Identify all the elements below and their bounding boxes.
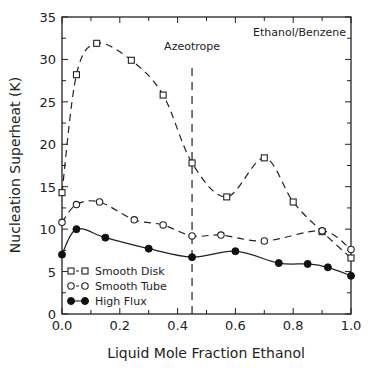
- chart: 0.00.20.40.60.81.005101520253035 Smooth …: [0, 0, 372, 373]
- data-point: [275, 260, 282, 267]
- legend-item: High Flux: [68, 295, 148, 308]
- x-tick-label: 0.4: [167, 318, 188, 333]
- y-tick-label: 20: [39, 137, 56, 152]
- series-layer: [59, 40, 355, 279]
- legend-marker: [68, 298, 75, 305]
- y-tick-label: 0: [48, 307, 56, 322]
- data-point: [73, 72, 79, 78]
- y-tick-label: 30: [39, 52, 56, 67]
- data-point: [261, 238, 267, 244]
- x-tick-label: 1.0: [341, 318, 362, 333]
- data-point: [261, 155, 267, 161]
- data-point: [232, 248, 239, 255]
- x-tick-label: 0.6: [225, 318, 246, 333]
- data-point: [96, 199, 102, 205]
- data-point: [290, 199, 296, 205]
- x-tick-label: 0.8: [283, 318, 304, 333]
- data-point: [131, 217, 137, 223]
- legend-marker: [68, 283, 74, 289]
- legend-label: Smooth Disk: [95, 265, 165, 278]
- legend-label: Smooth Tube: [95, 280, 167, 293]
- legend-marker: [82, 298, 89, 305]
- data-point: [348, 272, 355, 279]
- data-point: [224, 194, 230, 200]
- data-point: [348, 246, 354, 252]
- data-point: [59, 190, 65, 196]
- data-point: [59, 219, 65, 225]
- x-axis-title: Liquid Mole Fraction Ethanol: [107, 345, 305, 361]
- legend-marker: [82, 268, 88, 274]
- data-point: [160, 92, 166, 98]
- data-point: [189, 160, 195, 166]
- data-point: [304, 260, 311, 267]
- y-tick-label: 35: [39, 10, 56, 25]
- legend-item: Smooth Tube: [68, 280, 167, 293]
- data-point: [319, 228, 325, 234]
- legend-marker: [68, 268, 74, 274]
- y-tick-label: 15: [39, 180, 56, 195]
- series-smooth-disk: [59, 40, 354, 261]
- series-smooth-tube: [59, 199, 354, 253]
- data-point: [102, 234, 109, 241]
- y-tick-label: 25: [39, 95, 56, 110]
- data-point: [160, 222, 166, 228]
- data-point: [94, 40, 100, 46]
- data-point: [348, 255, 354, 261]
- data-point: [59, 251, 66, 258]
- data-point: [73, 201, 79, 207]
- legend-label: High Flux: [95, 295, 147, 308]
- legend: Smooth DiskSmooth TubeHigh Flux: [68, 265, 167, 308]
- y-axis-title: Nucleation Superheat (K): [7, 77, 23, 253]
- y-tick-label: 10: [39, 222, 56, 237]
- legend-item: Smooth Disk: [68, 265, 165, 278]
- data-point: [128, 57, 134, 63]
- data-point: [189, 233, 195, 239]
- legend-marker: [82, 283, 88, 289]
- data-point: [218, 232, 224, 238]
- data-point: [324, 264, 331, 271]
- azeotrope-label: Azeotrope: [164, 40, 220, 53]
- x-tick-label: 0.2: [109, 318, 130, 333]
- data-point: [189, 254, 196, 261]
- system-label: Ethanol/Benzene: [253, 26, 346, 39]
- data-point: [145, 245, 152, 252]
- data-point: [73, 226, 80, 233]
- y-tick-label: 5: [48, 265, 56, 280]
